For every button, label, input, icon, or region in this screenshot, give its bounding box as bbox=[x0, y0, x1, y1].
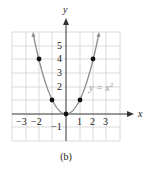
parabola-chart bbox=[0, 0, 152, 174]
curve-label-exponent: 2 bbox=[110, 81, 114, 89]
y-tick-3: 3 bbox=[57, 68, 62, 78]
figure-caption: (b) bbox=[0, 151, 132, 162]
y-axis-label: y bbox=[63, 5, 67, 15]
curve-label: y = x2 bbox=[89, 82, 113, 93]
y-axis-arrow-icon bbox=[63, 18, 69, 25]
y-tick-4: 4 bbox=[57, 54, 62, 64]
x-tick-neg2: −2 bbox=[31, 117, 42, 127]
x-tick-neg3: −3 bbox=[16, 117, 27, 127]
y-tick-neg1: −1 bbox=[51, 122, 62, 132]
y-tick-5: 5 bbox=[57, 41, 62, 51]
x-tick-3: 3 bbox=[103, 117, 108, 127]
curve-arrow-right-icon bbox=[97, 32, 101, 37]
x-tick-1: 1 bbox=[77, 117, 82, 127]
point-2-4 bbox=[91, 57, 96, 62]
axes bbox=[12, 22, 132, 141]
curve-arrow-left-icon bbox=[32, 32, 36, 37]
point-1-1 bbox=[78, 98, 83, 103]
y-tick-2: 2 bbox=[57, 82, 62, 92]
x-axis-label: x bbox=[138, 109, 142, 119]
x-tick-2: 2 bbox=[90, 117, 95, 127]
curve-label-text: y = x bbox=[89, 82, 110, 93]
point-neg2-4 bbox=[37, 57, 42, 62]
point-neg1-1 bbox=[50, 98, 55, 103]
x-axis-arrow-icon bbox=[127, 111, 134, 117]
point-0-0 bbox=[64, 112, 69, 117]
